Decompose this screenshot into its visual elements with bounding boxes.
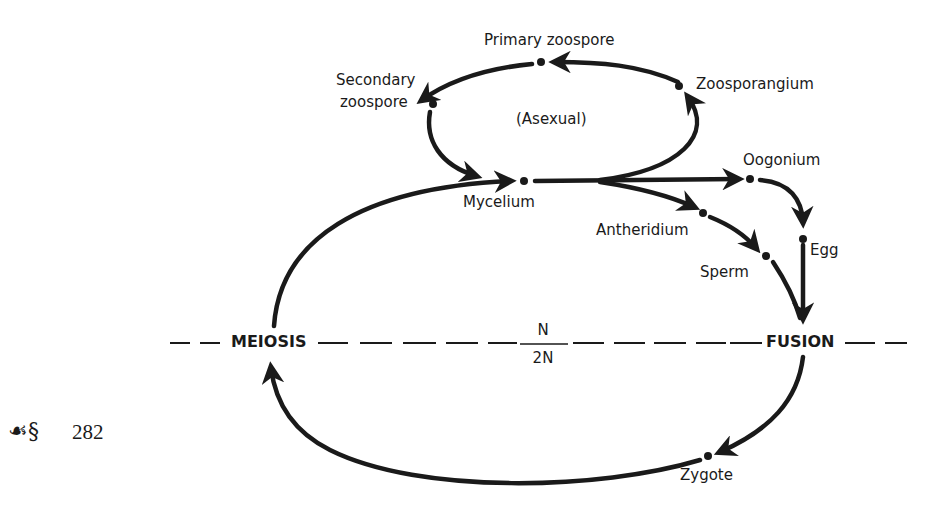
label-secondary-zoospore-line1: Secondary bbox=[336, 73, 415, 88]
label-antheridium: Antheridium bbox=[596, 223, 689, 238]
label-mycelium: Mycelium bbox=[463, 195, 535, 210]
label-zoosporangium: Zoosporangium bbox=[696, 77, 814, 92]
fleuron-ornament-icon: ☙§ bbox=[8, 418, 39, 443]
arrow-zoosporangium-to-primary-zoospore bbox=[555, 62, 678, 82]
dot-sperm bbox=[762, 252, 770, 260]
label-zygote: Zygote bbox=[680, 468, 733, 483]
dot-oogonium bbox=[746, 175, 754, 183]
arrow-fusion-to-zygote bbox=[720, 357, 803, 452]
label-diploid-2n: 2N bbox=[528, 349, 558, 367]
label-meiosis: MEIOSIS bbox=[231, 334, 306, 350]
dot-secondary-zoospore bbox=[429, 100, 437, 108]
node-dots bbox=[429, 58, 807, 460]
arrow-mycelium-to-zoosporangium bbox=[600, 97, 697, 180]
page-number: 282 bbox=[72, 420, 104, 445]
arrow-mycelium-to-antheridium bbox=[600, 182, 694, 207]
label-primary-zoospore: Primary zoospore bbox=[484, 33, 615, 48]
label-egg: Egg bbox=[810, 243, 839, 258]
arrow-zygote-to-meiosis bbox=[271, 368, 700, 483]
label-sperm: Sperm bbox=[700, 265, 749, 280]
label-haploid-n: N bbox=[528, 321, 558, 339]
dot-primary-zoospore bbox=[537, 58, 545, 66]
dot-egg bbox=[799, 235, 807, 243]
label-asexual-cycle: (Asexual) bbox=[516, 112, 587, 127]
arrow-oogonium-to-egg bbox=[760, 180, 803, 222]
dot-zygote bbox=[704, 452, 712, 460]
label-fusion: FUSION bbox=[766, 334, 834, 350]
label-oogonium: Oogonium bbox=[743, 153, 820, 168]
label-secondary-zoospore-line2: zoospore bbox=[340, 95, 408, 110]
dot-antheridium bbox=[699, 209, 707, 217]
arrow-secondary-to-mycelium bbox=[429, 112, 476, 176]
arrow-primary-zoospore-to-secondary bbox=[422, 64, 532, 100]
life-cycle-diagram: Primary zoospore Secondary zoospore Zoos… bbox=[0, 0, 938, 520]
arrow-sperm-to-fusion bbox=[773, 262, 800, 318]
dot-mycelium bbox=[520, 177, 528, 185]
dot-zoosporangium bbox=[675, 82, 683, 90]
arrow-mycelium-to-oogonium bbox=[535, 179, 738, 181]
arrow-antheridium-to-sperm bbox=[710, 217, 756, 248]
